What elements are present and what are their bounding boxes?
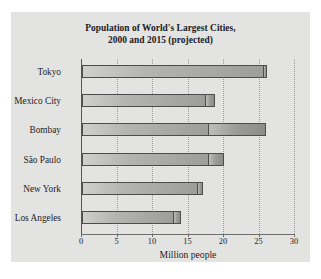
category-label-los-angeles: Los Angeles bbox=[0, 213, 61, 223]
category-label-bombay: Bombay bbox=[0, 125, 61, 135]
gridline-5 bbox=[117, 59, 119, 234]
chart-title-line-1: Population of World's Largest Cities, bbox=[11, 23, 310, 35]
bar-segment-2000[interactable] bbox=[83, 183, 197, 194]
gridline-20 bbox=[223, 59, 225, 234]
x-tick-label: 10 bbox=[140, 237, 164, 246]
bar-segment-2015[interactable] bbox=[173, 212, 179, 223]
stacked-bar[interactable] bbox=[82, 94, 215, 107]
stacked-bar[interactable] bbox=[82, 211, 181, 224]
stacked-bar[interactable] bbox=[82, 123, 266, 136]
plot-area: TokyoMexico CityBombaySão PauloNew YorkL… bbox=[81, 59, 294, 234]
bar-segment-2000[interactable] bbox=[83, 124, 208, 135]
x-tick-label: 0 bbox=[69, 237, 93, 246]
bar-segment-2015[interactable] bbox=[263, 66, 267, 77]
bar-segment-2015[interactable] bbox=[208, 124, 265, 135]
x-axis-line bbox=[81, 234, 295, 235]
x-tick-label: 30 bbox=[282, 237, 306, 246]
bar-segment-2000[interactable] bbox=[83, 66, 263, 77]
bar-segment-2000[interactable] bbox=[83, 212, 173, 223]
chart-title-line-2: 2000 and 2015 (projected) bbox=[11, 35, 310, 47]
x-axis-title: Million people bbox=[81, 249, 295, 260]
x-tick-label: 15 bbox=[176, 237, 200, 246]
gridline-25 bbox=[259, 59, 261, 234]
chart-figure: Population of World's Largest Cities, 20… bbox=[11, 12, 310, 262]
x-tick-label: 5 bbox=[105, 237, 129, 246]
chart-title: Population of World's Largest Cities, 20… bbox=[11, 23, 310, 46]
category-label-new-york: New York bbox=[0, 184, 61, 194]
bar-segment-2015[interactable] bbox=[208, 154, 223, 165]
bar-segment-2000[interactable] bbox=[83, 154, 208, 165]
y-axis-line bbox=[81, 59, 82, 234]
category-label-mexico-city: Mexico City bbox=[0, 96, 61, 106]
category-label-tokyo: Tokyo bbox=[0, 67, 61, 77]
stacked-bar[interactable] bbox=[82, 65, 267, 78]
bar-segment-2015[interactable] bbox=[205, 95, 214, 106]
bar-segment-2000[interactable] bbox=[83, 95, 205, 106]
gridline-10 bbox=[152, 59, 154, 234]
category-label-são-paulo: São Paulo bbox=[0, 155, 61, 165]
bar-segment-2015[interactable] bbox=[197, 183, 203, 194]
x-tick-label: 25 bbox=[247, 237, 271, 246]
gridline-15 bbox=[188, 59, 190, 234]
x-tick-label: 20 bbox=[211, 237, 235, 246]
stacked-bar[interactable] bbox=[82, 153, 224, 166]
gridline-30 bbox=[294, 59, 296, 234]
stacked-bar[interactable] bbox=[82, 182, 203, 195]
